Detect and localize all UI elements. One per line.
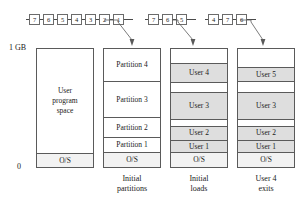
memory-band-user-1: User 1 (238, 141, 294, 154)
memory-band-label: User 3 (256, 102, 276, 110)
memory-band-free-space (171, 83, 227, 92)
caption-line: exits (231, 184, 297, 194)
memory-band-label: User (58, 87, 72, 96)
queue-item: 3 (85, 14, 96, 25)
queue-initial-loads: 765 (145, 13, 196, 25)
memory-band-label: User 1 (256, 143, 276, 151)
memory-partitioning-diagram: 7654321 765 476 1 GB 0 UserprogramspaceO… (0, 0, 297, 214)
memory-band-partition-3: Partition 3 (104, 82, 160, 118)
memory-band-o-s: O/S (171, 153, 227, 167)
memory-band-user-4: User 4 (171, 64, 227, 83)
memory-band-user-3: User 3 (171, 93, 227, 120)
queue-user-4-exits: 476 (205, 13, 256, 25)
memory-initial-loads: User 4User 3User 2User 1O/S (170, 48, 228, 168)
queue-initial-partitions: 7654321 (26, 13, 133, 25)
axis-label-bottom: 0 (17, 163, 21, 171)
memory-band-user-2: User 2 (238, 127, 294, 141)
memory-band-free-space (238, 49, 294, 68)
memory-band-label: O/S (193, 156, 205, 164)
queue-item: 7 (29, 14, 40, 25)
queue-item: 4 (71, 14, 82, 25)
memory-band-user-5: User 5 (238, 68, 294, 82)
queue-item: 6 (236, 14, 247, 25)
memory-band-o-s: O/S (37, 154, 93, 167)
memory-band-label: User 3 (189, 102, 209, 110)
queue-item: 6 (43, 14, 54, 25)
memory-band-user-2: User 2 (171, 127, 227, 141)
queue-item: 4 (208, 14, 219, 25)
memory-initial-partitions: Partition 4Partition 3Partition 2Partiti… (103, 48, 161, 168)
queue-item: 7 (222, 14, 233, 25)
memory-band-label: Partition 4 (116, 61, 147, 69)
memory-band-label: O/S (59, 157, 71, 165)
queue-item: 5 (176, 14, 187, 25)
memory-band-user-3: User 3 (238, 93, 294, 120)
memory-band-label: User 2 (256, 129, 276, 137)
memory-band-label: User 5 (256, 71, 276, 79)
memory-band-label: Partition 2 (116, 124, 147, 132)
memory-band-label: O/S (126, 156, 138, 164)
queue-item: 6 (162, 14, 173, 25)
caption-line: User 4 (231, 174, 297, 184)
queue-item: 1 (113, 14, 124, 25)
queue-item: 2 (99, 14, 110, 25)
queue-connector (124, 19, 133, 20)
queue-connector (187, 19, 196, 20)
caption-line: partitions (97, 184, 167, 194)
memory-band-label: space (57, 107, 74, 116)
memory-band-partition-4: Partition 4 (104, 49, 160, 82)
memory-band-label: program (52, 97, 77, 106)
memory-band-free-space (171, 49, 227, 64)
memory-band-free-space (238, 82, 294, 92)
caption-user-4-exits: User 4exits (231, 174, 297, 194)
memory-band-user-1: User 1 (171, 141, 227, 154)
memory-user-4-exits: User 5User 3User 2User 1O/S (237, 48, 295, 168)
axis-label-top: 1 GB (9, 44, 26, 52)
memory-band-label: User 4 (189, 69, 209, 77)
caption-line: loads (164, 184, 234, 194)
memory-band-label: User 1 (189, 143, 209, 151)
memory-band-partition-2: Partition 2 (104, 118, 160, 138)
memory-band-free-space (238, 120, 294, 127)
caption-line: Initial (164, 174, 234, 184)
caption-line: Initial (97, 174, 167, 184)
memory-band-o-s: O/S (104, 153, 160, 167)
memory-user-program-space: UserprogramspaceO/S (36, 48, 94, 168)
memory-band-label: Partition 3 (116, 96, 147, 104)
memory-band-o-s: O/S (238, 153, 294, 167)
memory-band-user-program-space: Userprogramspace (37, 49, 93, 154)
caption-initial-loads: Initialloads (164, 174, 234, 194)
memory-band-label: O/S (260, 156, 272, 164)
memory-band-free-space (171, 120, 227, 127)
caption-initial-partitions: Initialpartitions (97, 174, 167, 194)
queue-item: 7 (148, 14, 159, 25)
queue-connector (247, 19, 256, 20)
queue-item: 5 (57, 14, 68, 25)
memory-band-partition-1: Partition 1 (104, 138, 160, 152)
memory-band-label: User 2 (189, 129, 209, 137)
memory-band-label: Partition 1 (116, 141, 147, 149)
